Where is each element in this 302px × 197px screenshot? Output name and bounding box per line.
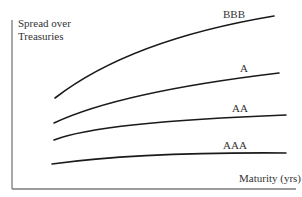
label-a: A [240,62,248,74]
x-axis-label: Maturity (yrs) [239,172,301,185]
curve-a [54,73,279,123]
curve-bbb [55,16,274,98]
curve-aa [54,115,286,140]
label-bbb: BBB [223,8,245,20]
y-axis-label-line1: Spread over [18,17,71,29]
y-axis-label-line2: Treasuries [18,30,63,42]
label-aa: AA [232,102,248,114]
curve-aaa [52,153,286,164]
label-aaa: AAA [223,139,247,151]
credit-spread-diagram: Spread over Treasuries Maturity (yrs) BB… [0,0,302,197]
